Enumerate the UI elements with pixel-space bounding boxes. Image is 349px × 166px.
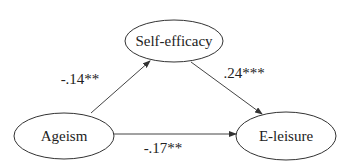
coefficient-label-c: -.17**	[144, 140, 183, 156]
edge-ageism-to-self-efficacy: -.14**	[61, 61, 150, 113]
e-leisure-label: E-leisure	[259, 128, 313, 144]
edge-ageism-to-e-leisure: -.17**	[114, 134, 236, 156]
arrow-ageism-self-efficacy	[91, 61, 150, 113]
mediation-diagram: -.14** .24*** -.17** Self-efficacy Ageis…	[0, 0, 349, 166]
node-ageism: Ageism	[14, 113, 114, 159]
coefficient-label-a: -.14**	[61, 71, 100, 87]
node-self-efficacy: Self-efficacy	[125, 20, 223, 62]
edge-self-efficacy-to-e-leisure: .24***	[191, 62, 265, 114]
node-e-leisure: E-leisure	[236, 112, 336, 160]
ageism-label: Ageism	[41, 128, 88, 144]
self-efficacy-label: Self-efficacy	[135, 33, 213, 49]
coefficient-label-b: .24***	[223, 65, 264, 81]
